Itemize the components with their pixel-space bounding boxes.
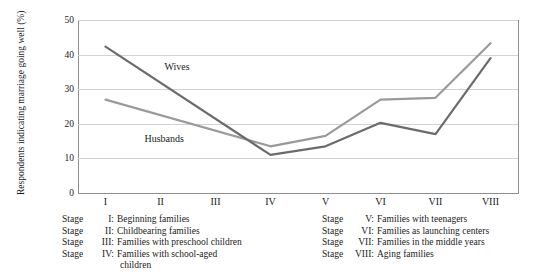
plot-right-border xyxy=(518,20,519,194)
stage-word: Stage xyxy=(62,226,88,238)
stage-description-continuation: children xyxy=(62,260,242,272)
stage-legend-row: StageVI:Families as launching centers xyxy=(322,226,489,238)
y-tick-label-30: 30 xyxy=(65,84,75,94)
stage-description: Families with preschool children xyxy=(114,237,242,249)
stage-description: Aging families xyxy=(374,249,434,261)
stage-word: Stage xyxy=(322,214,348,226)
x-axis-line xyxy=(78,193,519,194)
stage-numeral: II: xyxy=(88,226,114,238)
y-tick-label-50: 50 xyxy=(65,15,75,25)
stage-legend-row: StageI:Beginning families xyxy=(62,214,242,226)
stage-numeral: IV: xyxy=(88,249,114,261)
y-tick-label-0: 0 xyxy=(69,188,74,198)
plot-area: 01020304050 Wives Husbands xyxy=(78,20,518,193)
stage-description: Childbearing families xyxy=(114,226,200,238)
stage-numeral: VII: xyxy=(348,237,374,249)
line-husbands xyxy=(106,43,491,146)
y-tick-label-40: 40 xyxy=(65,50,75,60)
y-tick-label-10: 10 xyxy=(65,153,75,163)
x-tick-label-VIII: VIII xyxy=(482,196,499,207)
stage-word: Stage xyxy=(62,214,88,226)
series-lines xyxy=(78,20,518,193)
x-tick-label-I: I xyxy=(104,196,107,207)
stage-word: Stage xyxy=(322,249,348,261)
stage-legend-row: StageV:Families with teenagers xyxy=(322,214,489,226)
stage-word: Stage xyxy=(62,249,88,261)
stage-numeral: VIII: xyxy=(348,249,374,261)
x-tick-label-III: III xyxy=(211,196,221,207)
stage-legend-right-column: StageV:Families with teenagersStageVI:Fa… xyxy=(322,214,489,260)
x-tick-label-IV: IV xyxy=(265,196,276,207)
y-tick-label-20: 20 xyxy=(65,119,75,129)
stage-word: Stage xyxy=(322,226,348,238)
series-label-wives: Wives xyxy=(165,61,190,72)
stage-legend-row: StageVII:Families in the middle years xyxy=(322,237,489,249)
stage-numeral: III: xyxy=(88,237,114,249)
stage-legend-left-column: StageI:Beginning familiesStageII:Childbe… xyxy=(62,214,242,272)
stage-numeral: VI: xyxy=(348,226,374,238)
stage-description: Families with school-aged xyxy=(114,249,217,261)
x-tick-label-VI: VI xyxy=(375,196,386,207)
x-tick-label-VII: VII xyxy=(429,196,443,207)
x-axis-tick-labels: IIIIIIIVVVIVIIVIII xyxy=(78,196,519,212)
series-label-husbands: Husbands xyxy=(145,133,184,144)
stage-legend: StageI:Beginning familiesStageII:Childbe… xyxy=(0,214,551,274)
y-axis-title: Respondents indicating marriage going we… xyxy=(16,11,27,195)
x-tick-label-V: V xyxy=(322,196,329,207)
y-axis-title-container: Respondents indicating marriage going we… xyxy=(10,10,32,195)
stage-word: Stage xyxy=(62,237,88,249)
stage-description: Families with teenagers xyxy=(374,214,467,226)
stage-word: Stage xyxy=(322,237,348,249)
stage-numeral: I: xyxy=(88,214,114,226)
stage-legend-row: StageII:Childbearing families xyxy=(62,226,242,238)
chart-figure: Respondents indicating marriage going we… xyxy=(0,0,551,274)
x-tick-label-II: II xyxy=(157,196,164,207)
stage-description: Families in the middle years xyxy=(374,237,485,249)
stage-numeral: V: xyxy=(348,214,374,226)
stage-legend-row: StageIII:Families with preschool childre… xyxy=(62,237,242,249)
stage-legend-row: StageVIII:Aging families xyxy=(322,249,489,261)
stage-description: Families as launching centers xyxy=(374,226,489,238)
stage-description: Beginning families xyxy=(114,214,190,226)
stage-legend-row: StageIV:Families with school-aged xyxy=(62,249,242,261)
